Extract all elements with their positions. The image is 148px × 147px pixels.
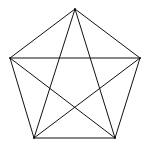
vertex-right [139, 57, 141, 59]
edge-left-top [10, 9, 75, 58]
edge-right-bottom-right [115, 58, 140, 138]
vertex-bottom-left [33, 137, 35, 139]
edge-top-right [75, 9, 140, 58]
vertex-bottom-right [114, 137, 116, 139]
edge-top-bottom-right [75, 9, 115, 138]
edge-bottom-left-left [10, 58, 34, 138]
vertex-left [9, 57, 11, 59]
edge-top-bottom-left [34, 9, 75, 138]
edge-left-bottom-right [10, 58, 115, 138]
vertex-top [74, 8, 76, 10]
edge-right-bottom-left [34, 58, 140, 138]
pentagon-star-diagram [0, 0, 148, 147]
